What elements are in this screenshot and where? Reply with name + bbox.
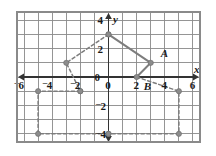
x-tick-label: 2 <box>133 79 139 91</box>
vertex-dot <box>36 89 41 94</box>
vertex-dot <box>36 131 41 136</box>
x-tick-label: 6 <box>190 79 196 91</box>
y-axis-name: y <box>111 13 118 25</box>
vertex-dot <box>176 131 181 136</box>
x-tick-label: 4 <box>162 79 168 91</box>
vertex-dot <box>106 131 111 136</box>
y-tick-label: 0 <box>95 71 101 83</box>
tick-value: 4 <box>47 79 53 91</box>
y-tick-label: 2 <box>98 43 104 55</box>
tick-value: 6 <box>19 79 25 91</box>
coordinate-plane-figure: –6–4–20246420–2–4 xyAB <box>0 0 216 156</box>
vertex-dot <box>106 32 111 37</box>
tick-value: 0 <box>95 71 101 83</box>
x-tick-label: 0 <box>105 79 111 91</box>
tick-value: 4 <box>98 14 104 26</box>
tick-value: 4 <box>162 79 168 91</box>
y-tick-label: 4 <box>98 14 104 26</box>
tick-value: 6 <box>190 79 196 91</box>
tick-value: 4 <box>101 128 107 140</box>
x-tick-label: –6 <box>14 77 25 91</box>
figure-canvas: –6–4–20246420–2–4 xyAB <box>0 0 216 156</box>
vertex-dot <box>176 89 181 94</box>
vertex-dot <box>64 60 69 65</box>
vertex-dot <box>148 60 153 65</box>
point-label-a: A <box>160 47 168 59</box>
tick-value: 0 <box>105 79 111 91</box>
tick-value: 2 <box>98 43 104 55</box>
tick-value: 2 <box>101 100 107 112</box>
point-label-b: B <box>143 80 151 92</box>
tick-value: 2 <box>133 79 139 91</box>
x-axis-name: x <box>193 63 200 75</box>
tick-value: 2 <box>75 79 81 91</box>
